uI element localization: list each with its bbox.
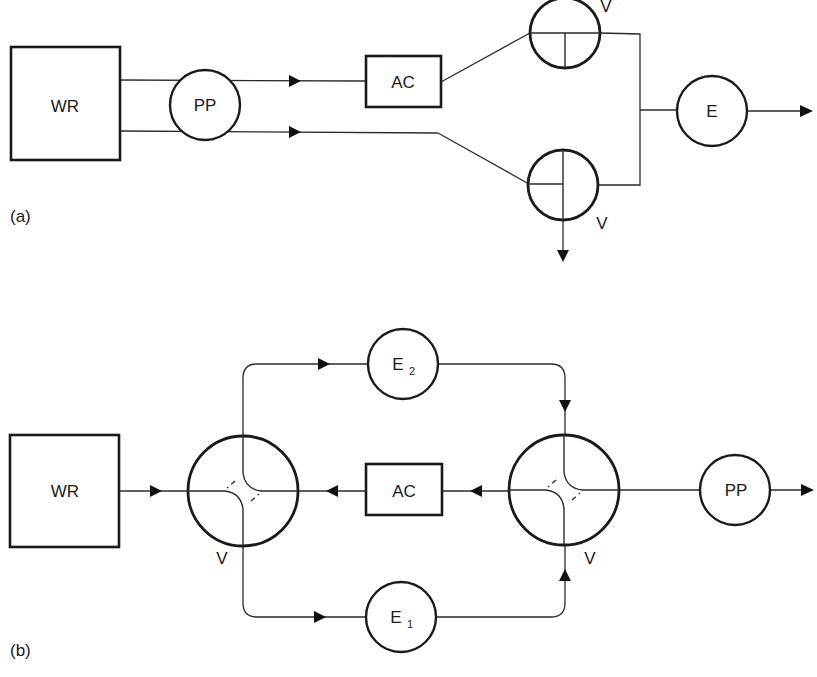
panel-label-b: (b) xyxy=(10,641,31,660)
arrow-right-icon xyxy=(801,484,814,496)
exchanger-label: E xyxy=(706,102,717,121)
arrow-down-icon xyxy=(559,400,571,412)
panel-a: WR PP AC V V E (a xyxy=(10,0,813,262)
arrow-left-icon xyxy=(326,485,338,497)
exchanger-1-subscript: 1 xyxy=(407,618,413,630)
valve-top-a: V xyxy=(530,0,612,68)
pipe-e2-to-valve-right xyxy=(438,364,565,435)
pipe-valve-left-to-e2 xyxy=(243,364,368,436)
valve-label: V xyxy=(584,549,596,568)
valve-label: V xyxy=(600,0,612,16)
valve-label: V xyxy=(596,214,608,233)
exchanger-a: E xyxy=(677,76,747,146)
panel-b: WR V AC xyxy=(10,329,814,660)
exchanger-1-label: E xyxy=(390,608,401,627)
auxiliary-column-a: AC xyxy=(366,56,441,107)
pipe-e1-to-valve-right xyxy=(436,545,565,617)
arrow-up-icon xyxy=(559,569,571,581)
pipe-wr-to-valve-bottom-diagonal xyxy=(438,133,529,184)
pipe-wr-to-ac xyxy=(120,80,366,81)
pipe-valves-to-junction xyxy=(599,33,640,185)
arrow-left-icon xyxy=(470,485,482,497)
exchanger-1: E 1 xyxy=(366,582,436,652)
arrow-right-icon xyxy=(318,358,330,370)
water-reservoir-b: WR xyxy=(10,435,119,547)
exchanger-2-subscript: 2 xyxy=(409,365,415,377)
arrow-right-icon xyxy=(800,105,813,117)
auxiliary-column-label: AC xyxy=(392,482,416,501)
valve-label: V xyxy=(216,549,228,568)
exchanger-2: E 2 xyxy=(368,329,438,399)
water-reservoir-a: WR xyxy=(11,47,120,160)
pipe-wr-to-valve-bottom-straight xyxy=(120,131,438,133)
flow-diagram: WR PP AC V V E (a xyxy=(0,0,817,677)
auxiliary-column-b: AC xyxy=(366,464,442,515)
valve-right-b: V xyxy=(509,435,619,568)
pump-label: PP xyxy=(194,96,217,115)
pump-b: PP xyxy=(700,455,770,525)
pipe-valve-left-to-e1 xyxy=(243,546,366,617)
arrow-right-icon xyxy=(150,485,162,497)
exchanger-2-label: E xyxy=(392,355,403,374)
arrow-right-icon xyxy=(289,126,301,138)
auxiliary-column-label: AC xyxy=(391,73,415,92)
water-reservoir-label: WR xyxy=(51,482,79,501)
arrow-right-icon xyxy=(289,75,301,87)
water-reservoir-label: WR xyxy=(51,97,79,116)
pump-a: PP xyxy=(170,70,240,140)
pump-label: PP xyxy=(725,481,748,500)
pipe-ac-to-valve-top xyxy=(441,33,530,82)
arrow-down-icon xyxy=(557,250,569,262)
arrow-right-icon xyxy=(314,611,326,623)
panel-label-a: (a) xyxy=(10,207,31,226)
valve-bottom-a: V xyxy=(528,150,608,233)
